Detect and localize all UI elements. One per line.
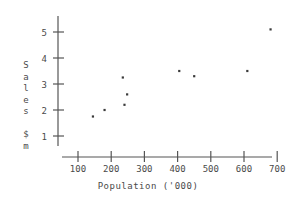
data-point [178, 70, 180, 72]
x-tick-label: 100 [70, 164, 86, 174]
data-point [126, 93, 128, 95]
y-tick-label: 4 [42, 54, 47, 64]
y-axis-tick-labels: 12345 [42, 28, 47, 142]
y-tick-label: 2 [42, 106, 47, 116]
x-tick-label: 700 [269, 164, 285, 174]
y-axis-title: Sales$m [23, 60, 28, 151]
y-axis-title-char: a [23, 72, 28, 82]
x-tick-label: 600 [236, 164, 252, 174]
y-tick-label: 3 [42, 80, 47, 90]
data-point [122, 76, 124, 78]
y-tick-label: 1 [42, 132, 47, 142]
data-point [246, 70, 248, 72]
x-axis-title-text: Population ('000) [98, 181, 199, 191]
axes [58, 16, 272, 157]
y-axis-title-char: s [23, 106, 28, 116]
y-axis-title-char: $ [23, 129, 28, 139]
data-point [269, 28, 271, 30]
x-tick-label: 200 [103, 164, 119, 174]
y-axis-title-char: S [23, 60, 28, 70]
data-point [123, 104, 125, 106]
y-tick-label: 5 [42, 28, 47, 38]
y-axis-title-char: m [23, 141, 28, 151]
data-point [193, 75, 195, 77]
data-point [103, 109, 105, 111]
x-tick-label: 300 [136, 164, 152, 174]
x-tick-label: 500 [203, 164, 219, 174]
x-tick-label: 400 [169, 164, 185, 174]
y-axis-title-char: l [23, 83, 28, 93]
data-point [92, 115, 94, 117]
scatter-plot: 12345 100200300400500600700 Sales$m Popu… [0, 0, 286, 200]
data-points [92, 28, 272, 117]
x-axis-tick-labels: 100200300400500600700 [70, 164, 285, 174]
y-axis-title-char: e [23, 95, 28, 105]
